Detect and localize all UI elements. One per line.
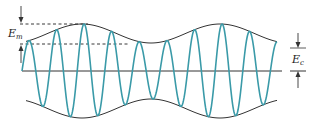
em-label: Em <box>8 28 23 41</box>
ec-label-main: E <box>292 53 300 66</box>
ec-label-sub: c <box>300 59 304 67</box>
am-wave-diagram <box>0 0 318 122</box>
ec-arrow-down-icon <box>296 33 301 48</box>
ec-arrow-up-icon <box>296 71 301 88</box>
ec-label: Ec <box>292 54 304 67</box>
em-label-sub: m <box>16 33 23 41</box>
envelope-upper <box>26 24 277 43</box>
carrier-wave <box>22 24 277 117</box>
em-arrow-down-icon <box>19 6 24 23</box>
em-label-main: E <box>8 27 16 40</box>
em-arrow-up-icon <box>19 45 24 63</box>
